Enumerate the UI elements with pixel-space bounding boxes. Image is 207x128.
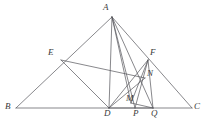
vertex-label-f: F — [150, 48, 156, 57]
vertex-label-b: B — [5, 102, 11, 111]
geometry-diagram: ABCEFNDMPQ — [0, 0, 207, 128]
vertex-label-d: D — [104, 109, 111, 118]
vertex-label-c: C — [194, 102, 200, 111]
cevian-AM — [112, 17, 131, 103]
vertex-label-a: A — [103, 3, 109, 12]
segment-ED — [61, 60, 109, 108]
vertex-label-e: E — [48, 48, 54, 57]
side-AB — [16, 17, 112, 108]
vertex-label-m: M — [126, 94, 134, 103]
vertex-label-q: Q — [151, 109, 158, 118]
vertex-label-p: P — [133, 109, 139, 118]
cevian-AD — [109, 17, 112, 108]
vertex-label-n: N — [147, 69, 153, 78]
segment-layer — [16, 17, 192, 108]
side-AC — [112, 17, 192, 108]
